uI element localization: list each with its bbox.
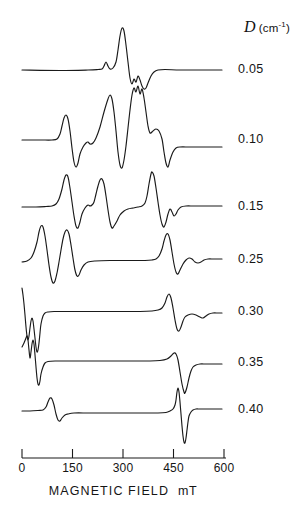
x-axis-tick-label: 300 <box>113 461 134 475</box>
legend-unit: (cm-1) <box>259 22 290 34</box>
legend-unit-exponent: -1 <box>278 20 286 29</box>
legend-unit-open: (cm <box>259 22 279 34</box>
x-axis-title-text: MAGNETIC FIELD <box>49 484 169 498</box>
legend-symbol-D: D <box>244 18 259 35</box>
label-layer: D(cm-1) 0.050.100.150.250.300.350.40 015… <box>0 0 300 514</box>
trace-value-label: 0.10 <box>238 132 294 146</box>
trace-value-label: 0.15 <box>238 199 294 213</box>
trace-value-label: 0.30 <box>238 304 294 318</box>
x-axis-title: MAGNETIC FIELDmT <box>0 484 246 498</box>
x-axis-tick-label: 0 <box>19 461 26 475</box>
legend-header: D(cm-1) <box>244 18 290 36</box>
x-axis-tick-label: 150 <box>62 461 83 475</box>
trace-value-label: 0.35 <box>238 355 294 369</box>
x-axis-tick-label: 450 <box>163 461 184 475</box>
trace-value-label: 0.25 <box>238 252 294 266</box>
x-axis-tick-label: 600 <box>214 461 235 475</box>
epr-spectra-figure: D(cm-1) 0.050.100.150.250.300.350.40 015… <box>0 0 300 514</box>
x-axis-unit: mT <box>169 484 197 498</box>
trace-value-label: 0.40 <box>238 402 294 416</box>
legend-unit-close: ) <box>286 22 290 34</box>
trace-value-label: 0.05 <box>238 62 294 76</box>
